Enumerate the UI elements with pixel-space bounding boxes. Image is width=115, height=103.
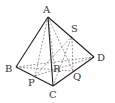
visible-edges bbox=[16, 17, 94, 86]
label-B: B bbox=[5, 63, 12, 74]
segment-AP bbox=[35, 17, 48, 76]
label-P: P bbox=[28, 77, 35, 88]
segment-PD bbox=[35, 57, 94, 76]
label-C: C bbox=[49, 89, 57, 100]
label-R: R bbox=[53, 63, 61, 74]
label-A: A bbox=[42, 4, 51, 15]
edge-AB bbox=[16, 17, 48, 67]
label-D: D bbox=[97, 52, 105, 63]
point-labels: ABCDSQPR bbox=[5, 4, 105, 100]
segment-BQ bbox=[16, 67, 73, 71]
label-Q: Q bbox=[73, 71, 81, 82]
label-S: S bbox=[71, 23, 78, 34]
hidden-edges bbox=[16, 17, 94, 86]
edge-AC bbox=[48, 17, 53, 86]
tetrahedron-diagram: ABCDSQPR bbox=[0, 0, 115, 103]
segment-QS bbox=[72, 36, 73, 71]
